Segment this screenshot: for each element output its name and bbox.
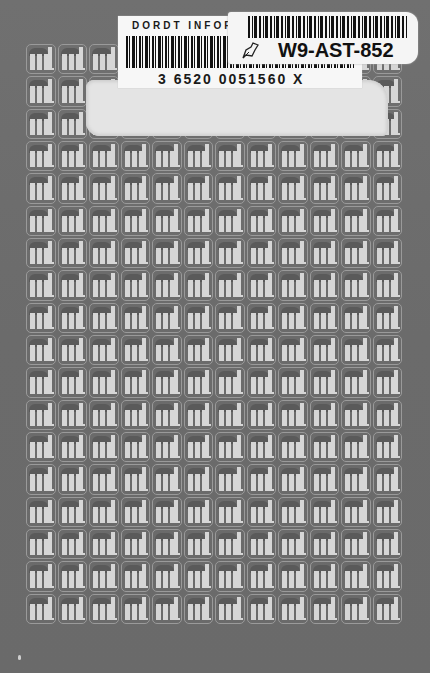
ml-logo-tile xyxy=(58,173,88,203)
ml-logo-tile xyxy=(26,109,56,139)
ml-logo-tile xyxy=(58,400,88,430)
ml-logo-tile xyxy=(184,497,214,527)
ml-logo-tile xyxy=(341,400,371,430)
ml-logo-tile xyxy=(215,335,245,365)
ml-logo-tile xyxy=(58,238,88,268)
ml-logo-tile xyxy=(247,206,277,236)
ml-logo-tile xyxy=(26,238,56,268)
ml-logo-tile xyxy=(152,335,182,365)
ml-logo-tile xyxy=(26,561,56,591)
ml-logo-tile xyxy=(278,432,308,462)
ml-logo-tile xyxy=(89,303,119,333)
ml-logo-tile xyxy=(310,335,340,365)
ml-logo-tile xyxy=(152,464,182,494)
leaf-icon xyxy=(240,42,260,60)
ml-logo-tile xyxy=(89,238,119,268)
ml-logo-tile xyxy=(341,594,371,624)
ml-logo-tile xyxy=(373,400,403,430)
ml-logo-tile xyxy=(247,464,277,494)
ml-logo-tile xyxy=(278,206,308,236)
ml-logo-tile xyxy=(121,400,151,430)
ml-logo-tile xyxy=(26,76,56,106)
ml-logo-tile xyxy=(373,206,403,236)
ml-logo-tile xyxy=(89,44,119,74)
ml-logo-tile xyxy=(310,400,340,430)
barcode-icon xyxy=(248,16,408,38)
ml-logo-tile xyxy=(215,529,245,559)
ml-logo-tile xyxy=(373,497,403,527)
ml-logo-tile xyxy=(341,270,371,300)
ml-logo-tile xyxy=(215,594,245,624)
ml-logo-tile xyxy=(152,303,182,333)
ml-logo-tile xyxy=(278,497,308,527)
ml-logo-tile xyxy=(310,173,340,203)
ml-logo-tile xyxy=(121,141,151,171)
ml-logo-tile xyxy=(373,238,403,268)
ml-logo-tile xyxy=(121,594,151,624)
ml-logo-tile xyxy=(341,529,371,559)
ml-logo-tile xyxy=(121,529,151,559)
ml-logo-tile xyxy=(26,270,56,300)
ml-logo-tile xyxy=(89,464,119,494)
ml-logo-tile xyxy=(26,303,56,333)
ml-logo-tile xyxy=(121,238,151,268)
ml-logo-tile xyxy=(215,141,245,171)
ml-logo-tile xyxy=(373,367,403,397)
ml-logo-tile xyxy=(247,432,277,462)
ml-logo-tile xyxy=(310,497,340,527)
ml-logo-tile xyxy=(215,464,245,494)
ml-logo-tile xyxy=(373,303,403,333)
ml-logo-tile xyxy=(89,141,119,171)
ml-logo-tile xyxy=(215,432,245,462)
ml-logo-tile xyxy=(247,400,277,430)
ml-logo-tile xyxy=(247,173,277,203)
ml-logo-tile xyxy=(58,529,88,559)
ml-logo-tile xyxy=(373,335,403,365)
ml-logo-tile xyxy=(26,594,56,624)
ml-logo-tile xyxy=(310,464,340,494)
ml-logo-tile xyxy=(152,400,182,430)
ml-logo-tile xyxy=(373,432,403,462)
ml-logo-tile xyxy=(215,238,245,268)
ml-logo-tile xyxy=(341,303,371,333)
ml-logo-tile xyxy=(373,594,403,624)
ml-logo-tile xyxy=(26,529,56,559)
ml-logo-tile xyxy=(278,529,308,559)
ml-logo-tile xyxy=(184,173,214,203)
ml-logo-tile xyxy=(373,141,403,171)
ml-logo-tile xyxy=(341,497,371,527)
ml-logo-tile xyxy=(310,594,340,624)
ml-logo-tile xyxy=(152,270,182,300)
ml-logo-tile xyxy=(278,464,308,494)
ml-logo-tile xyxy=(89,173,119,203)
institution-name: DORDT INFORI xyxy=(132,20,240,31)
ml-logo-tile xyxy=(373,529,403,559)
ml-logo-tile xyxy=(278,594,308,624)
ml-logo-tile xyxy=(58,303,88,333)
ml-logo-tile xyxy=(26,400,56,430)
ml-logo-tile xyxy=(58,206,88,236)
ml-logo-tile xyxy=(278,238,308,268)
ml-logo-tile xyxy=(310,367,340,397)
ml-logo-tile xyxy=(341,335,371,365)
ml-logo-tile xyxy=(184,367,214,397)
ml-logo-tile xyxy=(215,173,245,203)
ml-logo-tile xyxy=(89,270,119,300)
ml-logo-tile xyxy=(89,367,119,397)
ml-logo-tile xyxy=(215,367,245,397)
ml-logo-tile xyxy=(215,497,245,527)
ml-logo-tile xyxy=(58,497,88,527)
ml-logo-tile xyxy=(247,303,277,333)
ml-logo-tile xyxy=(121,367,151,397)
ml-logo-tile xyxy=(152,432,182,462)
ml-logo-tile xyxy=(58,561,88,591)
ml-logo-tile xyxy=(310,270,340,300)
ml-logo-tile xyxy=(152,173,182,203)
ml-logo-tile xyxy=(58,76,88,106)
ml-logo-tile xyxy=(89,335,119,365)
ml-logo-tile xyxy=(215,400,245,430)
ml-logo-tile xyxy=(184,303,214,333)
ml-logo-tile xyxy=(152,141,182,171)
ml-logo-tile xyxy=(373,270,403,300)
ml-logo-tile xyxy=(341,561,371,591)
